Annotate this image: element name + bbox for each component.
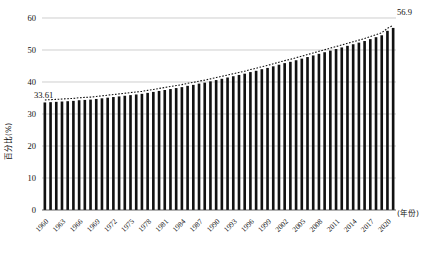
bar [186,86,189,210]
bar [352,44,355,210]
y-tick-label: 60 [28,13,37,23]
bar [78,100,81,210]
y-tick-label: 0 [32,205,36,215]
x-tick-label: 2008 [308,217,325,234]
bar [386,31,389,210]
bar [152,92,155,210]
bar [129,95,132,210]
y-tick-label: 40 [28,77,37,87]
x-tick-label: 1993 [222,217,239,234]
bar [232,76,235,210]
bar [89,100,92,210]
end-value-annotation: 56.9 [397,7,412,17]
bar [226,78,229,210]
bar [106,98,109,210]
y-tick-label: 10 [28,173,37,183]
y-tick-label: 50 [28,45,37,55]
bar [135,94,138,210]
x-tick-label: 2020 [376,217,393,234]
bar [169,89,172,210]
bar [221,79,224,210]
bar [49,102,52,210]
bars-group [44,28,395,210]
x-axis-title: (年份) [397,208,419,218]
bar [181,87,184,210]
chart-canvas: 0102030405060 19601963196619691972197519… [0,0,439,259]
x-tick-label: 2005 [290,217,307,234]
x-tick-label: 1972 [102,217,119,234]
bar [192,85,195,210]
x-tick-label: 1960 [33,217,50,234]
bar [215,80,218,210]
bar [101,98,104,210]
x-tick-label: 1969 [85,217,102,234]
bar [392,28,395,210]
y-tick-labels-group: 0102030405060 [28,13,37,215]
bar [340,47,343,210]
y-axis-title: 百分比(%) [3,123,13,160]
x-tick-label: 1978 [136,217,153,234]
x-tick-label: 1996 [239,217,256,234]
bar [369,39,372,210]
bar [243,74,246,210]
x-tick-label: 2011 [325,217,342,234]
bar [289,62,292,210]
bar [329,51,332,210]
y-tick-label: 20 [28,141,37,151]
x-tick-label: 2002 [273,217,290,234]
bar [363,41,366,210]
bar [266,68,269,210]
bar [346,46,349,210]
bar [112,97,115,210]
bar [118,96,121,210]
bar [249,72,252,210]
start-value-annotation: 33.61 [34,90,53,100]
x-tick-label: 1963 [51,217,68,234]
bar [358,43,361,210]
x-tick-label: 1990 [205,217,222,234]
x-tick-label: 1981 [153,217,170,234]
bar [123,96,126,210]
x-tick-label: 1984 [170,217,187,234]
x-tick-label: 2014 [342,217,359,234]
bar [209,81,212,210]
bar [380,35,383,210]
x-tick-label: 1999 [256,217,273,234]
bar [95,99,98,210]
bar [84,100,87,210]
bar [323,52,326,210]
bar [375,37,378,210]
bar [175,88,178,210]
bar [278,65,281,210]
y-tick-label: 30 [28,109,37,119]
bar [72,101,75,210]
bar [44,102,47,210]
bar [255,71,258,210]
bar [306,57,309,210]
bar [238,75,241,210]
bar [158,91,161,210]
bar [272,66,275,210]
bar [312,55,315,210]
x-tick-label: 1966 [68,217,85,234]
percentage-bar-chart: 0102030405060 19601963196619691972197519… [0,0,439,259]
x-tick-label: 2017 [359,217,376,234]
bar [61,102,64,210]
x-tick-label: 1975 [119,217,136,234]
bar [55,102,58,210]
bar [203,83,206,210]
bar [283,63,286,210]
bar [141,94,144,210]
x-tick-label: 1987 [188,217,205,234]
x-tick-labels-group: 1960196319661969197219751978198119841987… [33,217,393,234]
bar [198,84,201,210]
bar [66,101,69,210]
bar [146,93,149,210]
bar [163,90,166,210]
bar [261,69,264,210]
bar [335,49,338,210]
bar [295,60,298,210]
bar [318,54,321,210]
bar [300,59,303,210]
